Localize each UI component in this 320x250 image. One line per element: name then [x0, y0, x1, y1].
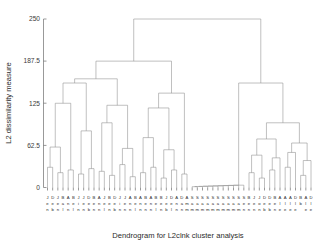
dendrogram-link	[303, 161, 311, 188]
leaf-label-char: m	[206, 207, 210, 212]
leaf-label-char: J	[258, 195, 260, 200]
leaf-label-char: B	[155, 195, 158, 200]
dendrogram-link	[79, 174, 84, 187]
leaf-label-char: J	[46, 195, 48, 200]
leaf-label-char: S	[227, 195, 230, 200]
leaf-label-char: n	[181, 207, 184, 212]
leaf-label-char: n	[175, 207, 178, 212]
leaf-label-char: A	[175, 195, 178, 200]
leaf-label-char: a	[196, 201, 199, 206]
leaf-label-char: n	[150, 207, 153, 212]
leaf-label-char: n	[175, 201, 178, 206]
leaf-label-char: D	[309, 195, 312, 200]
leaf-label-char: S	[232, 195, 235, 200]
leaf-label-char: e	[263, 201, 266, 206]
dendrogram-link	[249, 173, 254, 188]
leaf-label-char: n	[248, 207, 251, 212]
leaf-label-char: b	[113, 207, 116, 212]
leaf-label-char: m	[237, 207, 241, 212]
leaf-label-char: A	[284, 195, 287, 200]
leaf-label-char: i	[78, 201, 79, 206]
leaf-label-char: n	[139, 207, 142, 212]
leaf-label-char: l	[73, 207, 74, 212]
dendrogram-link	[148, 108, 169, 150]
ytick-label-187-5: 187.5	[23, 57, 40, 64]
dendrogram-link	[259, 178, 264, 187]
dendrogram-link	[102, 123, 112, 176]
leaf-label-char: l	[156, 207, 157, 212]
y-axis-ticks	[44, 19, 47, 188]
leaf-label-char: e	[289, 207, 292, 212]
dendrogram-link	[48, 167, 53, 187]
dendrogram-link	[120, 165, 125, 188]
leaf-label-char: n	[119, 207, 122, 212]
dendrogram-link	[195, 187, 203, 188]
dendrogram-link	[55, 103, 71, 170]
leaf-label-char: n	[129, 201, 132, 206]
leaf-label-char: n	[46, 207, 49, 212]
leaf-label-char: a	[227, 201, 230, 206]
leaf-label-char: l	[104, 207, 105, 212]
leaf-label-char: J	[83, 195, 85, 200]
dendrogram-link	[266, 123, 299, 143]
leaf-label-char: m	[196, 207, 200, 212]
leaf-label-char: e	[72, 201, 75, 206]
leaf-label-char: e	[46, 201, 49, 206]
leaf-label-char: D	[113, 195, 116, 200]
leaf-label-char: e	[268, 201, 271, 206]
dendrogram-link	[288, 152, 296, 187]
dendrogram-link	[134, 19, 261, 83]
dendrogram-link	[301, 175, 306, 187]
leaf-label-char: S	[222, 195, 225, 200]
leaf-label-char: n	[243, 207, 246, 212]
leaf-label-char: a	[217, 201, 220, 206]
leaf-label-char: a	[237, 201, 240, 206]
leaf-label-char: e	[253, 201, 256, 206]
dendrogram-link	[161, 178, 166, 187]
leaf-label-char: b	[88, 207, 91, 212]
leaf-label-char: S	[217, 195, 220, 200]
y-axis-title: L2 dissimilarity measure	[4, 62, 13, 143]
leaf-label-char: m	[221, 207, 225, 212]
leaf-label-char: B	[134, 195, 137, 200]
leaf-label-char: B	[248, 195, 251, 200]
leaf-label-char: e	[305, 207, 308, 212]
leaf-label-char: e	[88, 201, 91, 206]
leaf-label-char: J	[165, 195, 167, 200]
leaf-label-char: A	[67, 195, 70, 200]
leaf-label-char: a	[191, 201, 194, 206]
leaf-label-char: n	[77, 207, 80, 212]
leaf-label-char: n	[274, 207, 277, 212]
leaf-label-char: e	[165, 201, 168, 206]
leaf-label-char: n	[129, 207, 132, 212]
leaf-label-char: e	[144, 201, 147, 206]
leaf-label-char: e	[294, 207, 297, 212]
leaf-label-char: e	[279, 207, 282, 212]
dendrogram-link	[192, 187, 197, 188]
leaf-label-char: B	[108, 195, 111, 200]
leaf-label-char: B	[273, 195, 276, 200]
leaf-label-char: a	[62, 201, 65, 206]
leaf-label-char: n	[258, 207, 261, 212]
leaf-ticks	[48, 188, 312, 191]
dendrogram-link	[292, 143, 308, 161]
dendrogram-link	[50, 147, 60, 173]
leaf-label-char: B	[93, 195, 96, 200]
leaf-label-char: b	[263, 207, 266, 212]
y-axis: 250 187.5 125 62.5 0	[23, 15, 46, 191]
leaf-label-char: a	[222, 201, 225, 206]
leaf-label-char: J	[57, 195, 59, 200]
leaf-label-char: S	[237, 195, 240, 200]
dendrogram-link	[285, 167, 290, 187]
ytick-label-250: 250	[29, 15, 40, 22]
leaf-label-char: e	[243, 201, 246, 206]
leaf-label-char: D	[268, 195, 271, 200]
leaf-label-char: n	[98, 201, 101, 206]
dendrogram-link	[272, 158, 280, 188]
dendrogram-link	[182, 174, 187, 187]
leaf-label-char: n	[93, 207, 96, 212]
dendrogram-link	[68, 170, 73, 188]
leaf-label-char: J	[119, 195, 121, 200]
leaf-label-char: m	[216, 207, 220, 212]
leaf-label-char: D	[87, 195, 90, 200]
